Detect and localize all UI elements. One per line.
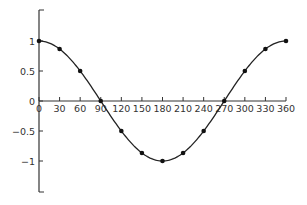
data-point	[37, 39, 42, 44]
data-point	[119, 129, 124, 134]
x-tick-label: 270	[215, 103, 233, 114]
x-tick-label: 60	[74, 103, 86, 114]
data-point	[140, 151, 145, 156]
data-point	[243, 69, 248, 74]
y-tick-label: −1	[21, 156, 35, 167]
data-point	[78, 69, 83, 74]
x-tick-label: 360	[277, 103, 295, 114]
x-tick-label: 240	[195, 103, 213, 114]
data-point	[222, 99, 227, 104]
data-point	[57, 47, 62, 52]
data-point	[263, 47, 268, 52]
y-tick-label: 1	[29, 36, 35, 47]
x-tick-label: 300	[236, 103, 254, 114]
x-tick-label: 210	[174, 103, 192, 114]
x-tick-label: 330	[256, 103, 274, 114]
y-tick-label: −0.5	[12, 126, 35, 137]
y-tick-label: 0.5	[20, 66, 35, 77]
x-tick-label: 0	[36, 103, 42, 114]
data-point	[98, 99, 103, 104]
x-tick-label: 150	[133, 103, 151, 114]
y-tick-label: 0	[29, 96, 35, 107]
data-point	[284, 39, 289, 44]
cosine-chart: 10.50−0.5−103060901201501802102402703003…	[0, 0, 307, 205]
x-tick-label: 180	[153, 103, 171, 114]
x-tick-label: 120	[112, 103, 130, 114]
data-point	[160, 159, 165, 164]
axes	[39, 10, 286, 192]
data-point	[181, 151, 186, 156]
x-tick-label: 30	[54, 103, 66, 114]
data-point	[201, 129, 206, 134]
